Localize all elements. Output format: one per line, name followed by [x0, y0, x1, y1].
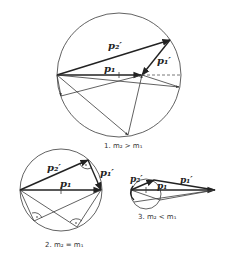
right-angle-dot-bottom	[75, 222, 77, 224]
label-p2-prime-2: p₂′	[47, 162, 61, 173]
caption-case1: 1. m₂ > m₁	[104, 142, 143, 150]
right-angle-dot-left	[36, 216, 38, 218]
label-p1-prime-2: p₁′	[100, 167, 114, 178]
alt-p2-vector-b	[57, 75, 128, 135]
caption-case3: 3. m₂ < m₁	[138, 213, 177, 221]
right-angle-dot-top	[85, 164, 87, 166]
label-p2-prime-1: p₂′	[108, 40, 122, 51]
diagram-case2: p₂′ p₁ p₁′ 2. m₂ = m₁	[20, 149, 114, 249]
label-p1-2: p₁	[60, 178, 71, 189]
label-p2-prime-3: p₂′	[130, 174, 143, 184]
label-p1-3: p₁	[157, 181, 167, 191]
alt-p1-vector-c	[61, 75, 142, 96]
label-p1-prime-1: p₁′	[157, 55, 171, 66]
alt-p1-vector-b	[128, 75, 142, 135]
momentum-diagrams: p₂′ p₁ p₁′ 1. m₂ > m₁ p₂′ p₁ p₁′ 2. m₂ =…	[0, 0, 228, 257]
diagram-case1: p₂′ p₁ p₁′ 1. m₂ > m₁	[57, 13, 182, 150]
diagram-case3: p₂′ p₁ p₁′ 3. m₂ < m₁	[130, 174, 215, 221]
label-p1-prime-3: p₁′	[180, 175, 193, 185]
label-p1-1: p₁	[104, 63, 115, 74]
caption-case2: 2. m₂ = m₁	[45, 241, 84, 249]
